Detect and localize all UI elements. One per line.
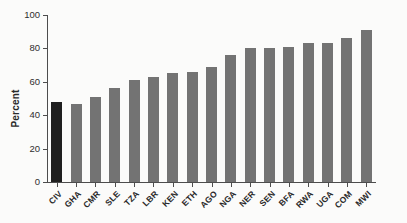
- bar-nga: [225, 55, 236, 182]
- y-tick-label-100: 100: [14, 10, 40, 20]
- x-tick-mark-civ: [57, 183, 58, 187]
- bar-lbr: [148, 77, 159, 182]
- y-tick-mark-80: [43, 48, 47, 49]
- x-tick-mark-com: [347, 183, 348, 187]
- x-tick-mark-bfa: [289, 183, 290, 187]
- x-tick-mark-ner: [250, 183, 251, 187]
- bar-ner: [245, 48, 256, 182]
- bar-sle: [109, 88, 120, 182]
- bar-ago: [206, 67, 217, 182]
- y-tick-label-20: 20: [14, 144, 40, 154]
- bar-com: [341, 38, 352, 182]
- bar-chart-figure: Percent 020406080100CIVGHACMRSLETZALBRKE…: [0, 0, 407, 223]
- bar-civ: [51, 102, 62, 182]
- y-tick-label-60: 60: [14, 77, 40, 87]
- bar-sen: [264, 48, 275, 182]
- bar-rwa: [303, 43, 314, 182]
- x-tick-mark-tza: [134, 183, 135, 187]
- x-tick-mark-cmr: [95, 183, 96, 187]
- x-tick-mark-gha: [76, 183, 77, 187]
- bar-gha: [71, 104, 82, 182]
- x-tick-mark-nga: [231, 183, 232, 187]
- x-tick-mark-ago: [212, 183, 213, 187]
- y-tick-label-0: 0: [14, 177, 40, 187]
- bar-uga: [322, 43, 333, 182]
- bar-tza: [129, 80, 140, 182]
- x-tick-mark-eth: [192, 183, 193, 187]
- y-tick-mark-100: [43, 15, 47, 16]
- bar-eth: [187, 72, 198, 182]
- y-axis-line: [47, 15, 48, 183]
- y-tick-mark-20: [43, 149, 47, 150]
- x-tick-mark-sen: [270, 183, 271, 187]
- x-tick-mark-lbr: [153, 183, 154, 187]
- x-tick-mark-mwi: [366, 183, 367, 187]
- y-tick-label-40: 40: [14, 110, 40, 120]
- bar-ken: [167, 73, 178, 182]
- x-tick-mark-rwa: [308, 183, 309, 187]
- bar-cmr: [90, 97, 101, 182]
- x-tick-mark-uga: [328, 183, 329, 187]
- bar-mwi: [361, 30, 372, 182]
- y-tick-label-80: 80: [14, 43, 40, 53]
- y-tick-mark-40: [43, 115, 47, 116]
- plot-area: 020406080100CIVGHACMRSLETZALBRKENETHAGON…: [0, 0, 407, 223]
- bar-bfa: [283, 47, 294, 182]
- y-tick-mark-0: [43, 182, 47, 183]
- y-tick-mark-60: [43, 82, 47, 83]
- x-tick-mark-ken: [173, 183, 174, 187]
- x-tick-mark-sle: [115, 183, 116, 187]
